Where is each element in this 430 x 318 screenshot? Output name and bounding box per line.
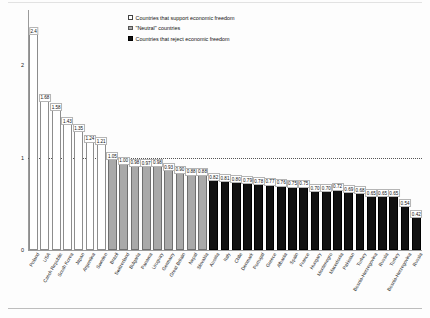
y-tick-label-1: 1: [8, 155, 24, 161]
bar-rect-neutral: [119, 158, 128, 250]
bar-value-label: 0.98: [129, 159, 141, 167]
bar-23[interactable]: 0.75: [288, 10, 297, 250]
bar-rect-reject: [299, 181, 308, 250]
bar-13[interactable]: 0.90: [176, 10, 185, 250]
bar-7[interactable]: 1.05: [108, 10, 117, 250]
bar-4[interactable]: 1.35: [74, 10, 83, 250]
bar-30[interactable]: 0.65: [367, 10, 376, 250]
bar-33[interactable]: 0.54: [401, 10, 410, 250]
bar-value-label: 0.98: [151, 159, 163, 167]
bar-value-label: 0.88: [196, 168, 208, 176]
bar-1[interactable]: 1.68: [40, 10, 49, 250]
bar-value-label: 0.75: [287, 180, 299, 188]
bar-value-label: 0.93: [163, 163, 175, 171]
bar-value-label: 1.58: [50, 103, 62, 111]
bar-series: 2.41.681.581.431.351.241.211.051.000.980…: [28, 10, 422, 250]
bar-25[interactable]: 0.70: [311, 10, 320, 250]
x-axis-category-labels: PolandUSACzech RepublicSouth KoreaJapanA…: [28, 252, 422, 310]
bar-value-label: 0.65: [388, 189, 400, 197]
bar-value-label: 0.88: [185, 168, 197, 176]
bar-21[interactable]: 0.77: [266, 10, 275, 250]
bar-5[interactable]: 1.24: [86, 10, 95, 250]
bottom-divider: [8, 308, 422, 309]
bar-value-label: 1.68: [39, 94, 51, 102]
bar-value-label: 0.77: [264, 178, 276, 186]
bar-rect-neutral: [108, 153, 117, 250]
bar-value-label: 0.65: [377, 189, 389, 197]
bar-8[interactable]: 1.00: [119, 10, 128, 250]
bar-28[interactable]: 0.69: [344, 10, 353, 250]
bar-2[interactable]: 1.58: [52, 10, 61, 250]
bar-12[interactable]: 0.93: [164, 10, 173, 250]
bar-14[interactable]: 0.88: [187, 10, 196, 250]
bar-value-label: 0.81: [219, 174, 231, 182]
bar-22[interactable]: 0.76: [277, 10, 286, 250]
bar-value-label: 1.05: [106, 152, 118, 160]
bar-34[interactable]: 0.42: [412, 10, 421, 250]
bar-20[interactable]: 0.78: [254, 10, 263, 250]
bar-value-label: 0.70: [320, 184, 332, 192]
bar-rect-reject: [243, 177, 252, 250]
bar-9[interactable]: 0.98: [131, 10, 140, 250]
bar-rect-support: [40, 95, 49, 250]
bar-rect-neutral: [198, 169, 207, 250]
bar-10[interactable]: 0.97: [142, 10, 151, 250]
bar-value-label: 0.80: [230, 175, 242, 183]
bar-17[interactable]: 0.81: [221, 10, 230, 250]
bar-rect-support: [52, 104, 61, 250]
bar-value-label: 0.65: [365, 189, 377, 197]
bar-rect-reject: [232, 176, 241, 250]
bar-value-label: 1.24: [84, 135, 96, 143]
bar-0[interactable]: 2.4: [29, 10, 38, 250]
bar-value-label: 0.75: [298, 180, 310, 188]
bar-19[interactable]: 0.79: [243, 10, 252, 250]
bar-value-label: 2.4: [29, 27, 38, 35]
bar-value-label: 0.82: [208, 173, 220, 181]
bar-value-label: 1.21: [95, 137, 107, 145]
bar-value-label: 0.70: [309, 184, 321, 192]
bar-26[interactable]: 0.70: [322, 10, 331, 250]
bar-chart: Countries that support economic freedom …: [0, 0, 430, 318]
bar-value-label: 0.68: [354, 186, 366, 194]
bar-value-label: 1.35: [73, 124, 85, 132]
bar-value-label: 1.00: [118, 157, 130, 165]
bar-11[interactable]: 0.98: [153, 10, 162, 250]
bar-value-label: 0.72: [332, 183, 344, 191]
bar-24[interactable]: 0.75: [299, 10, 308, 250]
bar-value-label: 0.69: [343, 185, 355, 193]
bar-rect-support: [97, 138, 106, 250]
y-tick-label-0: 0: [8, 247, 24, 253]
bar-value-label: 0.54: [399, 199, 411, 207]
bar-rect-reject: [221, 175, 230, 250]
bar-29[interactable]: 0.68: [356, 10, 365, 250]
bar-6[interactable]: 1.21: [97, 10, 106, 250]
bar-value-label: 0.42: [410, 210, 422, 218]
bar-value-label: 0.97: [140, 159, 152, 167]
bar-rect-support: [29, 28, 38, 250]
bar-value-label: 0.79: [242, 176, 254, 184]
y-tick-label-2: 2: [8, 62, 24, 68]
bar-value-label: 0.78: [253, 177, 265, 185]
bar-18[interactable]: 0.80: [232, 10, 241, 250]
bar-value-label: 1.43: [61, 117, 73, 125]
bar-value-label: 0.90: [174, 166, 186, 174]
bar-27[interactable]: 0.72: [333, 10, 342, 250]
bar-3[interactable]: 1.43: [63, 10, 72, 250]
bar-31[interactable]: 0.65: [378, 10, 387, 250]
bar-15[interactable]: 0.88: [198, 10, 207, 250]
bar-16[interactable]: 0.82: [209, 10, 218, 250]
top-divider: [8, 2, 422, 3]
bar-32[interactable]: 0.65: [389, 10, 398, 250]
bar-value-label: 0.76: [275, 179, 287, 187]
